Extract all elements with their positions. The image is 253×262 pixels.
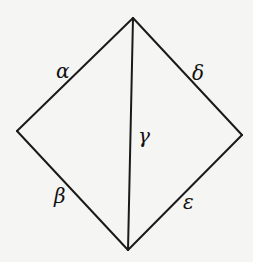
label-delta: δ <box>192 61 204 85</box>
label-epsilon: ε <box>183 190 194 214</box>
label-gamma: γ <box>138 124 150 148</box>
edge-beta <box>17 131 128 250</box>
label-beta: β <box>53 184 66 208</box>
diagram-canvas: α β γ δ ε <box>0 0 253 262</box>
edge-alpha <box>17 18 133 131</box>
edge-delta <box>133 18 242 135</box>
rhombus-diagram: α β γ δ ε <box>0 0 253 262</box>
edge-gamma-diagonal <box>128 18 133 250</box>
label-alpha: α <box>56 59 70 83</box>
